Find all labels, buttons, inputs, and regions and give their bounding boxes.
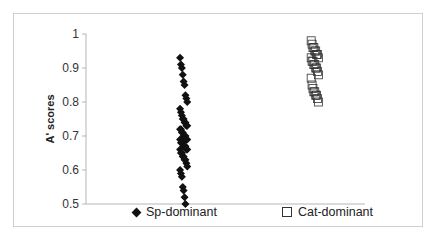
data-points (176, 37, 322, 208)
svg-text:0.7: 0.7 (62, 129, 79, 143)
y-axis-label: A' scores (44, 94, 56, 143)
legend-label-sp: Sp-dominant (146, 205, 217, 219)
diamond-marker-icon (132, 207, 142, 217)
legend-cat-dominant: Cat-dominant (282, 205, 373, 219)
y-ticks: 10.90.80.70.60.5 (62, 27, 86, 211)
legend-label-cat: Cat-dominant (298, 205, 373, 219)
legend-sp-dominant: Sp-dominant (133, 205, 217, 219)
svg-text:0.9: 0.9 (62, 61, 79, 75)
data-point (181, 193, 189, 201)
svg-text:0.6: 0.6 (62, 163, 79, 177)
square-marker-icon (282, 207, 292, 217)
svg-text:0.8: 0.8 (62, 95, 79, 109)
data-point (179, 71, 187, 79)
svg-text:1: 1 (72, 27, 79, 41)
data-point (176, 54, 184, 62)
svg-text:0.5: 0.5 (62, 197, 79, 211)
scatter-plot: 10.90.80.70.60.5 A' scores (0, 0, 431, 239)
